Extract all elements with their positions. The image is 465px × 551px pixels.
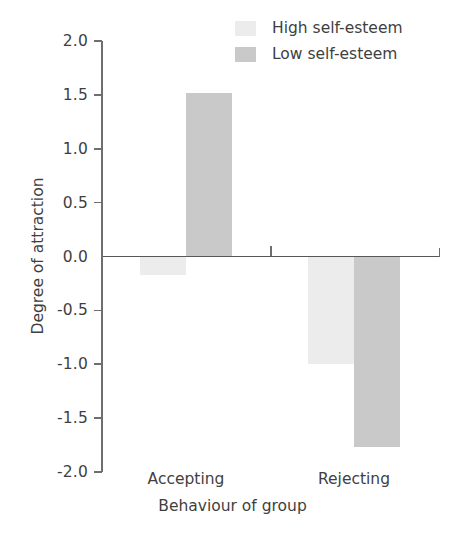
y-axis-tick-label: 0.0 (63, 248, 88, 266)
y-axis-tick-label: 0.5 (63, 194, 88, 212)
y-axis-tick-label: -2.0 (57, 463, 88, 481)
y-axis-tick-label: -0.5 (57, 301, 88, 319)
y-axis-tick-mark (94, 148, 102, 150)
x-axis-tick-label-rejecting: Rejecting (318, 470, 390, 488)
legend-item-high-self-esteem: High self-esteem (235, 16, 403, 40)
legend-label-high: High self-esteem (272, 19, 403, 37)
y-axis-tick-label: -1.0 (57, 355, 88, 373)
y-axis-tick-mark (94, 40, 102, 42)
y-axis-tick-mark (94, 417, 102, 419)
y-axis-tick-label: 2.0 (63, 32, 88, 50)
legend-swatch-icon-high (235, 21, 256, 36)
x-axis-left-endcap (101, 248, 103, 257)
y-axis-tick-label: 1.0 (63, 140, 88, 158)
bar-rejecting-high-self-esteem (308, 257, 354, 365)
y-axis-tick-mark (94, 471, 102, 473)
y-axis-tick-mark (94, 363, 102, 365)
y-axis-tick-label: -1.5 (57, 409, 88, 427)
x-axis-label: Behaviour of group (0, 497, 465, 515)
legend-item-low-self-esteem: Low self-esteem (235, 42, 403, 66)
legend: High self-esteem Low self-esteem (235, 16, 403, 68)
legend-swatch-icon-low (235, 47, 256, 62)
y-axis-label: Degree of attraction (29, 156, 47, 356)
y-axis-tick-mark (94, 94, 102, 96)
x-axis-category-divider-tick (270, 246, 272, 256)
x-axis-right-endcap (439, 248, 441, 257)
bar-rejecting-low-self-esteem (354, 257, 400, 448)
x-axis-tick-label-accepting: Accepting (148, 470, 225, 488)
bar-accepting-high-self-esteem (140, 257, 186, 275)
y-axis-tick-label: 1.5 (63, 86, 88, 104)
bar-accepting-low-self-esteem (186, 93, 232, 257)
bar-chart-figure: 2.01.51.00.50.0-0.5-1.0-1.5-2.0 Degree o… (0, 0, 465, 551)
y-axis-tick-mark (94, 310, 102, 312)
y-axis-tick-mark (94, 202, 102, 204)
legend-label-low: Low self-esteem (272, 45, 397, 63)
